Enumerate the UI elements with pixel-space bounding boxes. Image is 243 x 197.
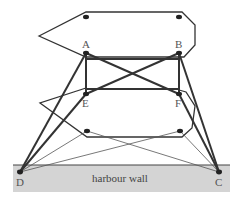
point-B: B <box>175 38 182 55</box>
harbour-wall-label: harbour wall <box>92 172 148 184</box>
point-F: F <box>175 92 182 109</box>
svg-text:B: B <box>175 38 182 50</box>
upper-boat-outline <box>39 12 195 57</box>
mooring-diagram: harbour wall A B E <box>0 0 243 197</box>
point-C: C <box>215 170 222 188</box>
svg-text:D: D <box>16 176 24 188</box>
point-D: D <box>16 170 24 188</box>
point-E: E <box>82 92 89 109</box>
svg-text:A: A <box>82 38 90 50</box>
svg-text:F: F <box>175 97 181 109</box>
point-A: A <box>82 38 90 55</box>
svg-text:E: E <box>82 97 89 109</box>
harbour-wall: harbour wall <box>13 165 230 192</box>
svg-text:C: C <box>215 176 222 188</box>
